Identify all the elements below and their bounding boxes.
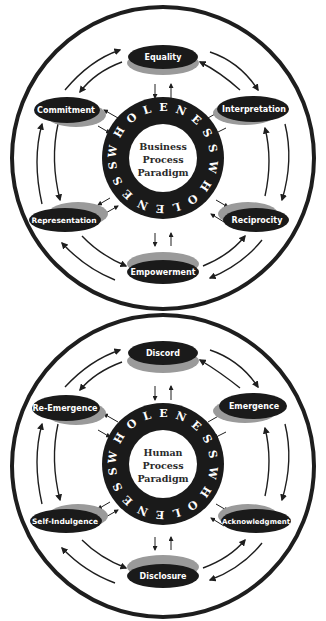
svg-text:Commitment: Commitment — [37, 106, 95, 115]
wholeness-diagrams: WHOLENESSWHOLENESS Business Process Para… — [0, 0, 326, 621]
svg-text:Acknowledgment: Acknowledgment — [222, 518, 291, 526]
center-line-2: Process — [142, 460, 183, 471]
svg-text:Representation: Representation — [31, 216, 96, 225]
svg-text:Empowerment: Empowerment — [130, 268, 195, 277]
center-line-3: Paradigm — [137, 473, 188, 484]
svg-text:Equality: Equality — [145, 53, 183, 62]
svg-text:Disclosure: Disclosure — [140, 572, 188, 581]
node-disclosure: Disclosure — [127, 555, 199, 588]
node-empowerment: Empowerment — [127, 252, 199, 284]
node-reciprocity: Reciprocity — [218, 202, 289, 232]
human-process-diagram: WHOLENESSWHOLENESS Human Process Paradig… — [12, 315, 314, 617]
center-line-3: Paradigm — [137, 167, 188, 178]
svg-text:Reciprocity: Reciprocity — [232, 216, 284, 225]
node-representation: Representation — [29, 202, 108, 232]
node-commitment: Commitment — [34, 97, 106, 127]
svg-text:Discord: Discord — [146, 349, 180, 358]
svg-text:Interpretation: Interpretation — [222, 105, 286, 114]
node-discord: Discord — [127, 341, 199, 373]
svg-text:Emergence: Emergence — [229, 402, 280, 411]
svg-text:Re-Emergence: Re-Emergence — [32, 404, 98, 413]
svg-text:Self-Indulgence: Self-Indulgence — [32, 517, 98, 526]
business-process-diagram: WHOLENESSWHOLENESS Business Process Para… — [12, 7, 314, 309]
center-line-1: Business — [139, 141, 187, 152]
node-equality: Equality — [127, 45, 199, 75]
center-line-1: Human — [144, 447, 183, 458]
node-interpretation: Interpretation — [213, 96, 289, 125]
center-line-2: Process — [142, 154, 183, 165]
